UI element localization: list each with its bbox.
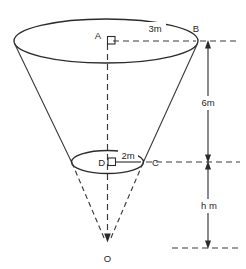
dimension-label-2m: 2m [121, 150, 134, 161]
point-label-b: B [193, 23, 199, 34]
dimension-label-hm: h m [201, 200, 217, 211]
point-label-c: C [152, 157, 159, 168]
axis-apex-arrowhead [104, 234, 111, 243]
point-label-a: A [95, 30, 102, 41]
cone-diagram-figure: A B C D O 3m 2m 6m h m [0, 0, 246, 269]
point-label-o: O [104, 253, 111, 264]
dimension-label-6m: 6m [201, 97, 214, 108]
apex-left-dashed-slant [72, 163, 105, 239]
point-label-d: D [98, 157, 105, 168]
dimension-label-3m: 3m [148, 23, 161, 34]
right-angle-mark-a [108, 37, 116, 45]
cone-right-slant [143, 44, 198, 164]
cone-left-slant [15, 44, 73, 164]
right-angle-mark-d [108, 158, 116, 166]
top-circle [14, 19, 198, 63]
apex-right-dashed-slant [111, 163, 144, 239]
cone-diagram-canvas: A B C D O 3m 2m 6m h m [0, 0, 246, 269]
